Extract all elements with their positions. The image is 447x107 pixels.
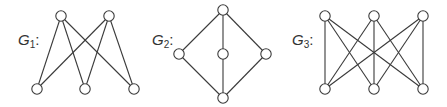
graph-edge [179, 54, 223, 98]
graph-label-g2: G2: [152, 32, 173, 50]
graph-node [56, 11, 66, 21]
graph-node [369, 84, 379, 94]
graph-g1 [32, 11, 139, 94]
graph-node [418, 11, 428, 21]
graph-g2 [174, 5, 271, 103]
graph-node [129, 84, 139, 94]
graph-node [104, 11, 114, 21]
graph-g3 [320, 11, 428, 94]
graph-node [218, 5, 228, 15]
graph-edge [223, 10, 266, 54]
graph-node [174, 49, 184, 59]
graph-node [369, 11, 379, 21]
graph-node [418, 84, 428, 94]
graph-node [218, 49, 228, 59]
label-letter: G [292, 31, 304, 48]
graph-node [32, 84, 42, 94]
graph-node [218, 93, 228, 103]
graph-edge [109, 16, 134, 89]
label-letter: G [152, 31, 164, 48]
graph-edge [85, 16, 109, 89]
graph-node [80, 84, 90, 94]
graph-edge [37, 16, 61, 89]
graph-node [320, 11, 330, 21]
graph-edge [179, 10, 223, 54]
graph-node [320, 84, 330, 94]
graph-node [261, 49, 271, 59]
label-letter: G [18, 31, 30, 48]
graph-label-g3: G3: [292, 32, 313, 50]
graph-diagram-canvas [0, 0, 447, 107]
graph-edge [223, 54, 266, 98]
graph-label-g1: G1: [18, 32, 39, 50]
